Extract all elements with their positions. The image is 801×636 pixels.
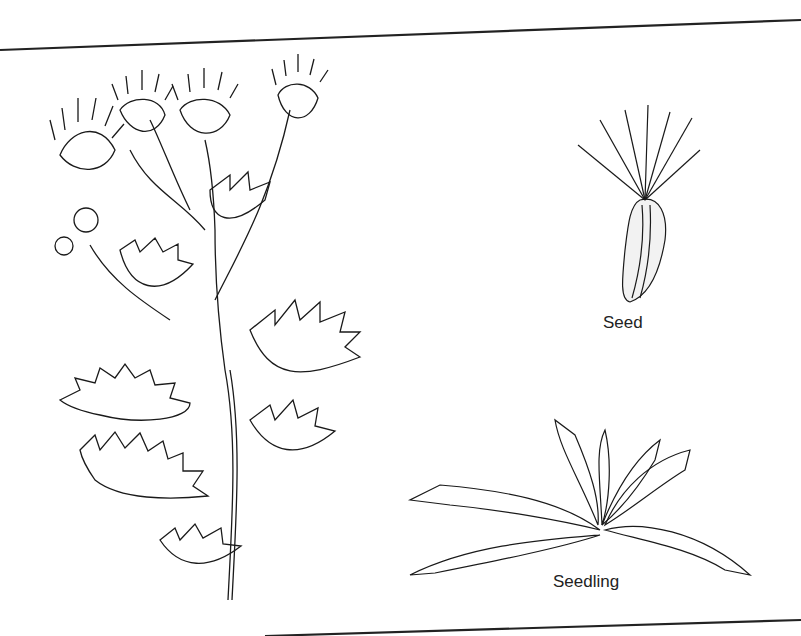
spiny-leaf	[250, 400, 335, 450]
spiny-leaf	[250, 300, 360, 372]
flower-bud	[74, 208, 98, 232]
seedling-drawing	[410, 420, 750, 575]
spiny-leaf	[120, 238, 193, 286]
seedling-leaf	[410, 485, 600, 530]
spiny-leaf	[80, 432, 208, 498]
seed-drawing	[578, 105, 700, 302]
seed-pappus	[578, 105, 700, 200]
flower-head	[112, 70, 173, 131]
spiny-leaf	[160, 524, 241, 563]
flower-bud	[55, 237, 73, 255]
flower-head	[272, 54, 328, 118]
seed-label: Seed	[603, 313, 643, 333]
top-border-line	[0, 20, 801, 50]
seed-body	[623, 199, 666, 302]
spiny-leaf	[60, 364, 190, 420]
bottom-border-line	[265, 620, 801, 636]
mature-thistle-plant	[50, 54, 360, 600]
flower-head	[50, 98, 124, 169]
botanical-illustration	[0, 0, 801, 636]
seedling-leaf	[605, 526, 750, 575]
spiny-leaf	[210, 172, 270, 218]
flower-head	[172, 68, 238, 133]
seedling-label: Seedling	[553, 572, 619, 592]
seedling-leaf	[410, 535, 600, 575]
seedling-leaf	[605, 450, 690, 525]
